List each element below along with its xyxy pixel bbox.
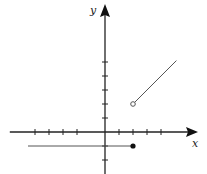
function-pieces — [28, 61, 176, 149]
y-axis-label: y — [89, 4, 97, 17]
open-endpoint — [131, 102, 136, 107]
tick-marks — [35, 62, 161, 160]
piecewise-function-graph: y x — [0, 0, 207, 174]
axes — [10, 4, 198, 174]
piece-2-segment — [133, 61, 176, 104]
closed-endpoint — [130, 143, 135, 148]
x-axis-label: x — [192, 137, 199, 150]
